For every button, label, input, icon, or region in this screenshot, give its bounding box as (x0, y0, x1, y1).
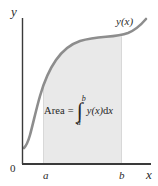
origin-label: 0 (10, 163, 16, 174)
area-word-label: Area (44, 106, 65, 117)
equals-sign: = (68, 106, 74, 117)
area-integral-annotation: Area = b ∫ a y(x) dx (44, 103, 113, 119)
differential-label: dx (103, 106, 113, 117)
integrand-label: y(x) (87, 106, 103, 117)
differential-variable: x (108, 105, 113, 116)
integral-sign-icon: ∫ (77, 103, 83, 119)
curve-label: y(x) (116, 16, 133, 27)
x-tick-label-a: a (43, 170, 49, 181)
x-axis-label: x (146, 168, 152, 181)
integral-lower-limit: a (77, 119, 81, 127)
area-under-curve-figure: y x y(x) 0 a b Area = b ∫ a y(x) dx (0, 0, 158, 186)
integral-expression: b ∫ a (77, 103, 83, 119)
x-tick-label-b: b (119, 170, 125, 181)
plot-canvas (0, 0, 158, 186)
y-axis-label: y (11, 5, 17, 18)
